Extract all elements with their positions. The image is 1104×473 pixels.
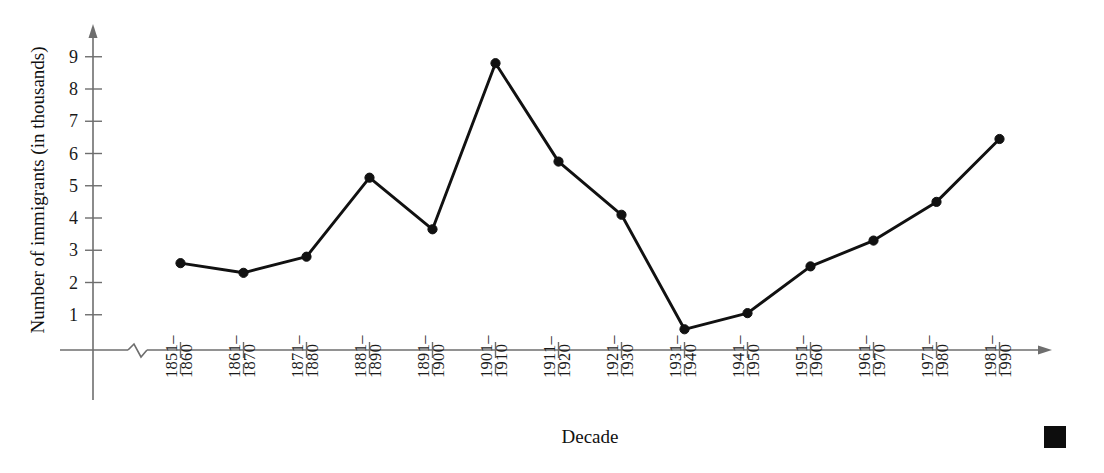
x-tick-label: 1880 (303, 344, 322, 378)
data-point (932, 197, 941, 206)
data-point (302, 252, 311, 261)
x-tick-label-group: 1851–18601861–18701871–18801881–18901891… (162, 335, 1015, 378)
y-tick-label: 8 (69, 79, 78, 99)
y-tick-label: 1 (69, 305, 78, 325)
x-tick-label: 1980 (933, 344, 952, 378)
y-tick-label: 3 (69, 240, 78, 260)
data-point (617, 210, 626, 219)
x-tick-label: 1950 (744, 344, 763, 378)
y-tick-label-group: 123456789 (69, 47, 78, 325)
data-point (239, 268, 248, 277)
x-tick-label: 1890 (366, 344, 385, 378)
x-tick-label: 1960 (807, 344, 826, 378)
data-series-line (181, 63, 1000, 329)
data-point (806, 262, 815, 271)
corner-black-square-marker (1044, 426, 1066, 448)
data-point (869, 236, 878, 245)
chart-page: 123456789 1851–18601861–18701871–1880188… (0, 0, 1104, 473)
data-point (176, 259, 185, 268)
x-tick-label: 1910 (492, 344, 511, 378)
data-point (365, 173, 374, 182)
x-tick-label: 1920 (555, 344, 574, 378)
y-axis-arrowhead (89, 24, 98, 38)
data-point (428, 225, 437, 234)
x-axis-arrowhead (1038, 346, 1052, 355)
data-point (743, 309, 752, 318)
y-tick-label: 2 (69, 273, 78, 293)
x-tick-label: 1900 (429, 344, 448, 378)
data-point (995, 134, 1004, 143)
x-tick-label: 1940 (681, 344, 700, 378)
y-tick-label: 7 (69, 111, 78, 131)
data-point (680, 325, 689, 334)
data-point-group (176, 59, 1004, 334)
x-axis-title: Decade (562, 426, 619, 447)
x-tick-label: 1870 (240, 344, 259, 378)
x-tick-label: 1990 (996, 344, 1015, 378)
data-point (491, 59, 500, 68)
axis-break-zigzag (128, 344, 147, 357)
y-tick-label: 9 (69, 47, 78, 67)
y-axis-title: Number of immigrants (in thousands) (27, 46, 49, 333)
y-tick-label: 5 (69, 176, 78, 196)
x-tick-label: 1930 (618, 344, 637, 378)
x-tick-label: 1860 (177, 344, 196, 378)
data-point (554, 157, 563, 166)
y-tick-label: 4 (69, 208, 78, 228)
y-tick-label: 6 (69, 144, 78, 164)
y-axis (89, 24, 98, 400)
x-tick-label: 1970 (870, 344, 889, 378)
line-chart: 123456789 1851–18601861–18701871–1880188… (0, 0, 1104, 473)
